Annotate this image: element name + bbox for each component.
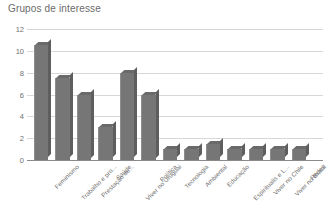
bar-slot — [141, 29, 154, 160]
bar-side-face — [306, 143, 309, 157]
bar-side-face — [48, 39, 51, 157]
bar-slot — [55, 29, 68, 160]
bar-slot — [77, 29, 90, 160]
bar — [206, 144, 220, 160]
bar-side-face — [242, 143, 245, 157]
bar-slot — [34, 29, 47, 160]
bar-chart: Grupos de interesse 024681012 FeminismoT… — [0, 0, 333, 214]
bar — [292, 149, 306, 160]
y-axis-tick-label: 2 — [2, 134, 24, 143]
bar-slot — [163, 29, 176, 160]
bar — [98, 127, 112, 160]
bar — [120, 73, 134, 160]
bar-side-face — [220, 138, 223, 157]
bar-slot — [206, 29, 219, 160]
bar-side-face — [156, 89, 159, 158]
bar-slot — [184, 29, 197, 160]
bar-side-face — [70, 72, 73, 157]
bar-side-face — [113, 121, 116, 157]
bar — [34, 45, 48, 160]
bar — [184, 149, 198, 160]
bar-side-face — [263, 143, 266, 157]
x-axis-labels: FeminismoTrabalho e pro...Prestação de..… — [27, 161, 323, 214]
bar-slot — [292, 29, 305, 160]
bar-series — [27, 29, 323, 160]
y-axis-tick-label: 8 — [2, 68, 24, 77]
bar — [141, 95, 155, 161]
bar-slot — [249, 29, 262, 160]
bar — [77, 95, 91, 161]
bar — [227, 149, 241, 160]
y-axis-tick-label: 6 — [2, 90, 24, 99]
x-axis-tick-label: Educação — [225, 163, 250, 188]
bar-side-face — [199, 143, 202, 157]
y-axis-tick-label: 4 — [2, 112, 24, 121]
y-axis-tick-label: 0 — [2, 156, 24, 165]
bar-slot — [120, 29, 133, 160]
y-axis: 024681012 — [0, 0, 24, 214]
x-axis-tick-label: Redes — [308, 163, 326, 181]
bar-slot — [227, 29, 240, 160]
bar — [249, 149, 263, 160]
bar-slot — [98, 29, 111, 160]
bar-slot — [270, 29, 283, 160]
bar — [163, 149, 177, 160]
bar-side-face — [91, 89, 94, 158]
bar-side-face — [285, 143, 288, 157]
bar-side-face — [177, 143, 180, 157]
x-axis-tick-label: Feminismo — [53, 163, 80, 190]
y-axis-tick-label: 12 — [2, 25, 24, 34]
bar-side-face — [134, 67, 137, 157]
bar — [55, 78, 69, 160]
bar — [270, 149, 284, 160]
y-axis-tick-label: 10 — [2, 46, 24, 55]
